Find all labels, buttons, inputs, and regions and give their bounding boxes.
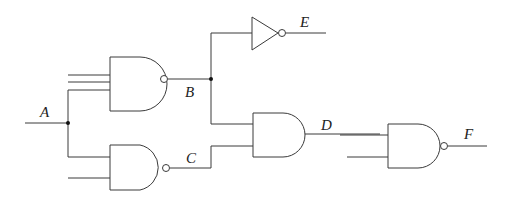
not-gate	[252, 17, 326, 50]
label-d: D	[320, 117, 332, 133]
label-b: B	[185, 84, 194, 100]
label-e: E	[299, 14, 309, 30]
label-a: A	[39, 104, 50, 120]
nand-gate-2	[68, 145, 170, 190]
label-c: C	[186, 150, 197, 166]
nand-gate-1	[68, 57, 168, 111]
label-f: F	[463, 126, 474, 142]
input-a-wire	[25, 90, 110, 157]
wire-b	[168, 33, 253, 124]
logic-circuit-diagram: A B E C D	[0, 0, 512, 204]
wire-c	[170, 146, 253, 168]
